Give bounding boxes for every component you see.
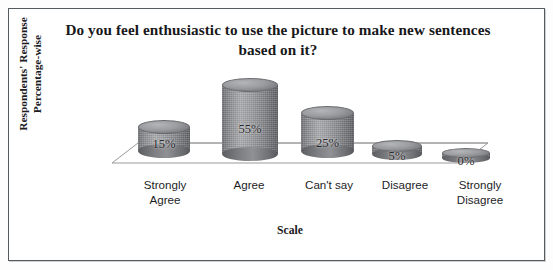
x-tick-strongly-agree: Strongly Agree — [120, 177, 210, 207]
x-tick-strongly-agree-line-2: Agree — [120, 192, 210, 207]
x-tick-agree: Agree — [208, 177, 290, 192]
bar-strongly-disagree: 0% — [442, 148, 490, 158]
bar-top-agree — [222, 78, 278, 92]
y-axis-label-line-2: Percentage-wise — [30, 0, 44, 164]
x-tick-cant-say-line-1: Can't say — [286, 177, 372, 192]
plot-area: 15% 55% 25% 5% 0% — [100, 78, 500, 173]
chart-figure: Do you feel enthusiastic to use the pict… — [0, 0, 553, 270]
x-tick-strongly-agree-line-1: Strongly — [120, 177, 210, 192]
bar-bottom-agree — [222, 147, 278, 161]
y-axis-label-line-1: Respondents' Response — [17, 17, 29, 131]
x-axis-label: Scale — [160, 224, 420, 237]
bar-value-strongly-agree: 15% — [122, 137, 206, 152]
x-tick-strongly-disagree: Strongly Disagree — [434, 177, 526, 207]
bar-value-strongly-disagree: 0% — [426, 154, 506, 169]
bar-top-cant-say — [301, 106, 354, 120]
x-tick-cant-say: Can't say — [286, 177, 372, 192]
x-tick-strongly-disagree-line-2: Disagree — [434, 192, 526, 207]
x-tick-agree-line-1: Agree — [208, 177, 290, 192]
bar-strongly-agree: 15% — [138, 120, 190, 151]
bar-cant-say: 25% — [301, 106, 354, 151]
y-axis-label: Respondents' Response Percentage-wise — [16, 0, 44, 164]
chart-title: Do you feel enthusiastic to use the pict… — [58, 20, 498, 60]
bar-top-strongly-agree — [138, 120, 190, 134]
bar-agree: 55% — [222, 78, 278, 154]
x-axis-tick-labels: Strongly Agree Agree Can't say Disagree … — [100, 177, 500, 217]
bar-value-agree: 55% — [206, 122, 294, 137]
chart-title-line-1: Do you feel enthusiastic to use the pict… — [65, 21, 425, 38]
bar-body-agree — [222, 85, 278, 154]
bar-disagree: 5% — [372, 140, 422, 154]
x-tick-strongly-disagree-line-1: Strongly — [434, 177, 526, 192]
